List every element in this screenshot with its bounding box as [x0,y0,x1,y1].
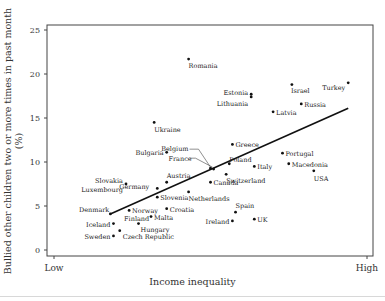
point-label: Russia [304,101,326,109]
x-axis-ticks: LowHigh [44,256,378,273]
data-point [112,222,115,225]
data-point [128,209,131,212]
point-label: Slovenia [160,194,188,202]
x-tick-label: High [356,263,378,273]
data-point [234,211,237,214]
data-point [212,168,215,171]
y-tick-label: 15 [30,114,40,123]
point-label: Luxembourg [81,186,123,194]
point-label: France [168,155,191,163]
point-label: Austria [166,172,191,180]
point-label: Finland [124,215,149,223]
y-tick-label: 25 [30,26,40,35]
data-point [287,162,290,165]
data-point [225,173,228,176]
scatter-chart: 0510152025 LowHigh RomaniaEstoniaLithuan… [0,0,385,301]
point-label: Malta [154,214,173,222]
y-axis-ticks: 0510152025 [30,26,47,255]
point-label: Turkey [322,84,345,92]
point-label: Estonia [223,89,248,97]
y-tick-label: 5 [35,202,40,211]
point-label: Israel [291,87,310,95]
y-tick-label: 0 [35,246,40,255]
data-point [231,220,234,223]
data-point [165,207,168,210]
data-point [250,95,253,98]
point-label: Greece [235,141,259,149]
point-label: Portugal [285,150,313,158]
data-point [112,235,115,238]
point-label: Ukraine [154,126,181,134]
data-point [187,58,190,61]
y-tick-label: 10 [30,158,40,167]
data-point [109,213,112,216]
data-point [253,218,256,221]
data-point [118,229,121,232]
point-label: Bulgaria [136,149,164,157]
data-point [187,191,190,194]
point-label: Ireland [206,218,230,226]
point-label: Latvia [276,109,297,117]
point-label: UK [257,216,267,224]
point-label: Iceland [86,221,110,229]
point-label: Canada [214,179,239,187]
point-label: Poland [229,156,251,164]
point-label: Czech Republic [123,233,175,241]
divider [0,296,385,297]
y-tick-label: 20 [30,70,40,79]
point-label: Denmark [79,206,109,214]
data-point [165,181,168,184]
data-point [209,181,212,184]
data-point [231,143,234,146]
data-points: RomaniaEstoniaLithuaniaIsraelTurkeyRussi… [79,58,350,241]
x-axis-label: Income inequality [0,276,385,287]
point-label: Belgium [161,145,188,153]
data-point [272,110,275,113]
data-point [347,81,350,84]
data-point [290,83,293,86]
data-point [300,103,303,106]
point-label: Netherlands [189,195,230,203]
point-label: Sweden [84,233,110,241]
data-point [153,121,156,124]
x-tick-label: Low [44,263,63,273]
data-point [156,196,159,199]
data-point [209,167,212,170]
data-point [281,152,284,155]
point-label: Croatia [170,206,195,214]
point-label: USA [314,175,329,183]
data-point [253,165,256,168]
data-point [156,187,159,190]
point-label: Spain [236,202,255,210]
point-label: Romania [189,62,218,70]
data-point [137,222,140,225]
y-axis-label: Bullied other children two or more times… [2,6,24,276]
point-label: Italy [257,163,272,171]
data-point [150,215,153,218]
data-point [250,93,253,96]
data-point [312,169,315,172]
point-label: Germany [119,183,149,191]
point-label: Lithuania [217,100,249,108]
point-label: Macedonia [292,161,328,169]
